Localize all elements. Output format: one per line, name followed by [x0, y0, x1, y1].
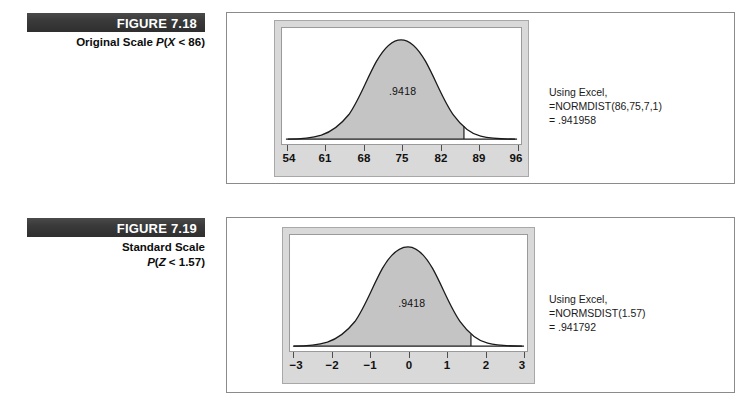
chart-inner: .9418 54 61 68 75 82 89 96: [281, 27, 522, 170]
axis-tick-label: −2: [325, 359, 338, 371]
excel-note-line: = .941958: [549, 113, 662, 127]
axis-tick: [293, 352, 294, 358]
figure-number-label: FIGURE 7.18: [117, 15, 197, 30]
excel-formula-note: Using Excel, =NORMDIST(86,75,7,1) = .941…: [549, 85, 662, 127]
shaded-area: [288, 40, 464, 139]
axis-tick-label: −1: [363, 359, 376, 371]
figure-caption-text: Original Scale P(X < 86): [0, 35, 205, 50]
probability-label: .9418: [389, 85, 416, 97]
excel-note-line: Using Excel,: [549, 292, 646, 306]
x-axis-strip: −3 −2 −1 0 1 2 3: [289, 352, 528, 377]
normal-curve-chart: [290, 235, 527, 351]
chart-frame: .9418 54 61 68 75 82 89 96: [274, 20, 529, 177]
axis-tick-label: 75: [396, 152, 409, 164]
axis-tick-label: −3: [289, 359, 302, 371]
excel-note-line: =NORMSDIST(1.57): [549, 306, 646, 320]
axis-tick-label: 54: [283, 152, 296, 164]
axis-tick-label: 82: [435, 152, 448, 164]
figure-panel: .9418 54 61 68 75 82 89 96: [226, 12, 735, 184]
axis-tick: [441, 145, 442, 151]
axis-tick-label: 96: [510, 152, 523, 164]
figure-number-label: FIGURE 7.19: [117, 220, 197, 235]
axis-tick: [325, 145, 326, 151]
axis-tick: [287, 145, 288, 151]
caption-line: Original Scale P(X < 86): [0, 35, 205, 50]
figure-panel: .9418 −3 −2 −1 0 1 2 3: [226, 217, 735, 393]
axis-tick: [447, 352, 448, 358]
axis-tick-label: 68: [358, 152, 371, 164]
axis-tick: [370, 352, 371, 358]
axis-tick: [364, 145, 365, 151]
axis-tick: [402, 145, 403, 151]
axis-tick: [518, 145, 519, 151]
excel-note-line: = .941792: [549, 320, 646, 334]
shaded-area: [294, 247, 471, 346]
figure-block-718: FIGURE 7.18 Original Scale P(X < 86): [0, 0, 755, 205]
axis-tick-label: 3: [519, 359, 525, 371]
excel-formula-note: Using Excel, =NORMSDIST(1.57) = .941792: [549, 292, 646, 334]
figure-caption-text: Standard Scale P(Z < 1.57): [0, 240, 205, 270]
figure-number-bar: FIGURE 7.18: [27, 13, 205, 32]
axis-tick: [524, 352, 525, 358]
probability-label: .9418: [398, 297, 425, 309]
plot-area: .9418: [281, 27, 522, 145]
excel-note-line: =NORMDIST(86,75,7,1): [549, 99, 662, 113]
axis-tick-label: 1: [444, 359, 450, 371]
chart-frame: .9418 −3 −2 −1 0 1 2 3: [282, 227, 535, 384]
chart-inner: .9418 −3 −2 −1 0 1 2 3: [289, 234, 528, 377]
axis-tick: [409, 352, 410, 358]
figure-block-719: FIGURE 7.19 Standard Scale P(Z < 1.57): [0, 205, 755, 412]
axis-tick-label: 89: [473, 152, 486, 164]
figure-number-bar: FIGURE 7.19: [27, 218, 205, 237]
axis-tick-label: 2: [483, 359, 489, 371]
x-axis-strip: 54 61 68 75 82 89 96: [281, 145, 522, 170]
axis-tick: [479, 145, 480, 151]
axis-tick: [486, 352, 487, 358]
caption-line: P(Z < 1.57): [0, 255, 205, 270]
excel-note-line: Using Excel,: [549, 85, 662, 99]
axis-tick-label: 0: [406, 359, 412, 371]
caption-line: Standard Scale: [0, 240, 205, 255]
axis-tick: [332, 352, 333, 358]
axis-tick-label: 61: [319, 152, 332, 164]
plot-area: .9418: [289, 234, 528, 352]
